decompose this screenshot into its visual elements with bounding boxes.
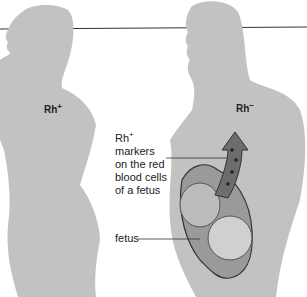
rh-markers-annotation: Rh+ markers on the red blood cells of a … [115,128,167,197]
male-silhouette [0,5,100,297]
mother-rh-label: Rh− [236,99,254,115]
fetus-head [208,216,252,260]
fetus-body [180,183,220,227]
father-rh-label: Rh+ [44,100,62,116]
rh-factor-diagram: Rh+ Rh− Rh+ markers on the red blood cel… [0,0,307,297]
fetus-label: fetus [115,232,139,245]
